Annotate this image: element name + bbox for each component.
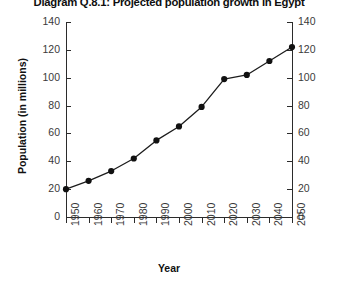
data-point [86,178,92,184]
data-point [63,186,69,192]
y-axis-tick-label-left: 140 [20,16,60,26]
y-axis-tick-label-right: 60 [298,127,338,137]
data-point [153,137,159,143]
data-point [108,168,114,174]
y-axis-tick-label-right: 100 [298,72,338,82]
chart-title: Diagram Q.8.1: Projected population grow… [0,0,338,8]
x-axis-title: Year [0,262,338,274]
y-axis-right-spine [292,22,293,217]
data-point [176,123,182,129]
x-axis-tick [156,217,157,223]
x-axis-tick [89,217,90,223]
y-axis-tick-label-right: 40 [298,155,338,165]
x-axis-tick [269,217,270,223]
data-point [244,72,250,78]
data-point [221,76,227,82]
plot-area: 020406080100120140 020406080100120140 19… [66,22,292,217]
y-axis-tick-label-left: 60 [20,127,60,137]
y-axis-tick-label-right: 20 [298,183,338,193]
x-axis-tick [202,217,203,223]
x-axis-tick [66,217,67,223]
y-axis-tick-label-left: 0 [20,211,60,221]
x-axis-tick-label: 2050 [296,203,306,226]
y-axis-tick-label-left: 100 [20,72,60,82]
y-axis-tick-label-right: 140 [298,16,338,26]
y-axis-tick-label-left: 120 [20,44,60,54]
data-point [289,44,295,50]
x-axis-tick [111,217,112,223]
y-axis-tick-label-left: 80 [20,100,60,110]
data-point [131,155,137,161]
population-series [66,22,292,217]
y-axis-tick-label-left: 20 [20,183,60,193]
x-axis-tick [134,217,135,223]
y-axis-tick-label-left: 40 [20,155,60,165]
x-axis-tick [179,217,180,223]
population-growth-line-chart: Diagram Q.8.1: Projected population grow… [0,0,338,286]
x-axis-tick [292,217,293,223]
y-axis-tick-label-right: 80 [298,100,338,110]
series-line [66,47,292,189]
x-axis-tick [224,217,225,223]
data-point [266,58,272,64]
x-axis-tick [247,217,248,223]
y-axis-tick-label-right: 120 [298,44,338,54]
data-point [199,104,205,110]
